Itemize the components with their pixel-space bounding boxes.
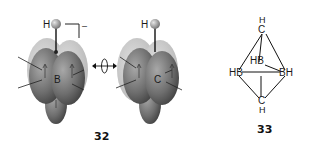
- compound-label-33: 33: [257, 123, 272, 136]
- charge-bracket: [65, 24, 79, 38]
- atom-h: H: [43, 19, 50, 30]
- atom-back-hb: HB: [250, 55, 264, 66]
- carborane-structure: [239, 34, 285, 98]
- atom-bottom-h: H: [259, 105, 266, 115]
- figure: H B – H C 32: [0, 0, 318, 158]
- isolobal-arrow-icon: [92, 59, 117, 73]
- orbital-model-c: H C: [116, 19, 182, 124]
- orbital-model-b: H B –: [18, 19, 88, 124]
- compound-label-32: 32: [94, 130, 109, 143]
- charge-sign: –: [82, 21, 87, 31]
- atom-c: C: [154, 74, 161, 85]
- atom-h: H: [141, 19, 148, 30]
- atom-right-bh: BH: [279, 67, 293, 78]
- atom-left-hb: HB: [229, 67, 243, 78]
- carborane-labels: H C HB HB BH C H: [229, 15, 293, 115]
- atom-top-c: C: [258, 24, 265, 35]
- atom-b: B: [54, 74, 61, 85]
